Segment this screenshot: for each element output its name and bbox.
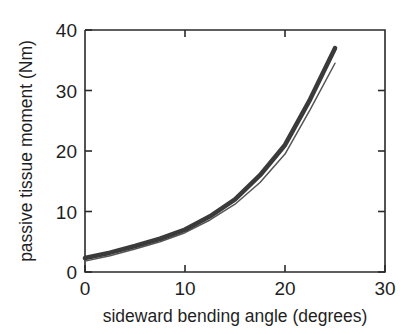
axis-frame bbox=[85, 30, 385, 272]
y-tick-labels: 0 10 20 30 40 bbox=[56, 20, 77, 283]
y-axis-title: passive tissue moment (Nm) bbox=[16, 40, 36, 262]
line-chart-canvas: 0 10 20 30 40 0 10 20 30 sideward bendin… bbox=[0, 0, 418, 334]
y-axis-ticks bbox=[85, 30, 385, 272]
y-tick-label: 10 bbox=[56, 202, 77, 223]
y-tick-label: 40 bbox=[56, 20, 77, 41]
x-tick-label: 10 bbox=[174, 278, 195, 299]
chart-figure: 0 10 20 30 40 0 10 20 30 sideward bendin… bbox=[0, 0, 418, 334]
x-axis-title: sideward bending angle (degrees) bbox=[103, 306, 368, 326]
x-tick-label: 0 bbox=[80, 278, 91, 299]
y-tick-label: 20 bbox=[56, 141, 77, 162]
x-axis-ticks bbox=[85, 30, 385, 272]
series-line-thick bbox=[85, 48, 335, 258]
x-tick-label: 20 bbox=[274, 278, 295, 299]
y-tick-label: 0 bbox=[66, 262, 77, 283]
y-tick-label: 30 bbox=[56, 81, 77, 102]
series-line-thin bbox=[85, 63, 335, 261]
x-tick-label: 30 bbox=[374, 278, 395, 299]
x-tick-labels: 0 10 20 30 bbox=[80, 278, 396, 299]
